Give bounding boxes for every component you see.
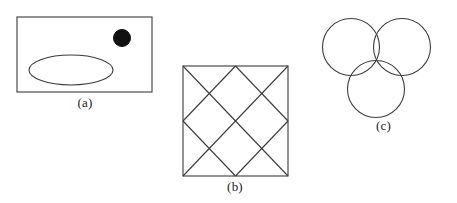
panel-b-drawing (170, 55, 300, 185)
panel-c-caption: (c) (310, 119, 457, 133)
circle-bottom-center (348, 61, 405, 118)
panel-b: (b) (170, 55, 300, 203)
panel-c-drawing (310, 0, 457, 130)
panel-a: (a) (0, 0, 170, 120)
panel-c: (c) (310, 0, 457, 145)
panel-a-caption: (a) (0, 96, 170, 110)
figure-root: (a) (b) (c) (0, 0, 457, 203)
ellipse-outline (29, 55, 113, 85)
bounding-rectangle (17, 17, 152, 92)
circle-top-left (323, 19, 380, 76)
filled-dot (114, 30, 131, 47)
circle-top-right (374, 19, 431, 76)
panel-b-caption: (b) (170, 180, 300, 194)
